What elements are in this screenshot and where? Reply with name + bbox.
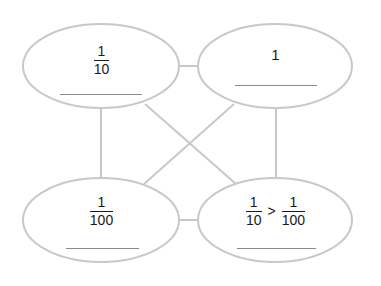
- greater-than-symbol: >: [268, 203, 276, 219]
- denominator: 100: [90, 213, 113, 228]
- fraction-one-tenth: 1 10: [246, 195, 262, 228]
- answer-blank[interactable]: [66, 248, 139, 249]
- fraction-one-tenth: 1 10: [94, 44, 110, 77]
- denominator: 10: [94, 62, 110, 77]
- node-bottom-left: 1 100: [24, 178, 179, 262]
- denominator: 100: [282, 213, 305, 228]
- answer-blank[interactable]: [237, 248, 316, 249]
- answer-blank[interactable]: [235, 85, 317, 86]
- node-bottom-right: 1 10 > 1 100: [198, 178, 353, 262]
- numerator: 1: [287, 195, 299, 210]
- fraction-one-hundredth: 1 100: [90, 195, 113, 228]
- whole-number: 1: [271, 46, 279, 63]
- fraction-one-hundredth: 1 100: [282, 195, 305, 228]
- numerator: 1: [96, 44, 108, 59]
- numerator: 1: [248, 195, 260, 210]
- answer-blank[interactable]: [60, 94, 142, 95]
- node-top-left: 1 10: [24, 24, 179, 108]
- numerator: 1: [96, 195, 108, 210]
- node-top-right: 1: [198, 24, 353, 108]
- denominator: 10: [246, 213, 262, 228]
